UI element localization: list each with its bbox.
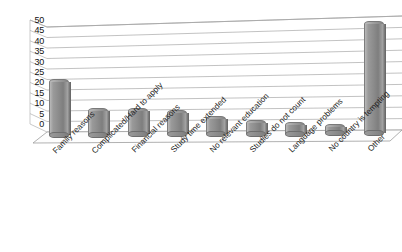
x-axis-labels: Family reasonsComplicated/Hard to applyF…: [0, 0, 402, 252]
x-axis-label-2: Complicated/Hard to apply: [90, 80, 165, 155]
x-axis-label-9: Other: [366, 133, 387, 154]
chart-container: 50 45 40 35 30 25 20 15 10 5 0 Family re…: [0, 0, 402, 252]
